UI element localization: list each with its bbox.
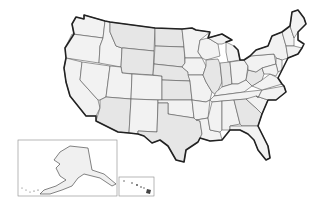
state-wyoming: [121, 48, 154, 75]
us-outline-map: [0, 0, 325, 208]
state-colorado: [131, 74, 162, 100]
contiguous-us: [64, 10, 306, 162]
alaska-inset: [18, 140, 117, 196]
state-arizona: [96, 97, 131, 133]
state-arkansas: [192, 100, 210, 120]
state-north-dakota: [155, 28, 184, 47]
hawaii-inset: [119, 177, 154, 196]
state-south-dakota: [154, 46, 185, 67]
state-mississippi: [208, 101, 222, 132]
state-florida: [230, 126, 270, 160]
state-new-mexico: [129, 99, 158, 134]
state-kansas: [162, 80, 192, 100]
